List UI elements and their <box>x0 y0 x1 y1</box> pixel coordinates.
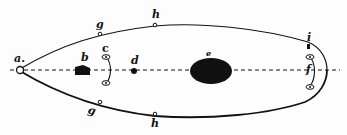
diagram-drawing <box>0 0 347 135</box>
diagram: a. b c d e f g h g h i <box>0 0 347 135</box>
organ-d <box>131 68 137 74</box>
label-d: d <box>131 55 139 66</box>
label-g-top: g <box>96 19 104 30</box>
marker-h-top <box>153 23 157 27</box>
marker-i <box>307 44 310 49</box>
label-h-bottom: h <box>151 118 159 129</box>
label-b: b <box>81 52 89 63</box>
organ-f-upper-pupil <box>309 56 311 58</box>
label-a: a. <box>14 53 25 64</box>
body-outline-upper <box>20 25 327 70</box>
marker-h-bottom <box>153 112 157 116</box>
label-h-top: h <box>152 9 160 20</box>
body-outline-lower <box>20 70 327 117</box>
marker-g-top <box>98 32 102 36</box>
organ-b <box>75 65 90 75</box>
organ-c-upper-pupil <box>105 56 107 58</box>
organ-c-lower-pupil <box>105 82 107 84</box>
organ-e <box>190 58 232 84</box>
organ-f-lower-pupil <box>309 86 311 88</box>
anterior-pole-a <box>17 67 24 74</box>
label-e: e <box>206 49 211 57</box>
label-f: f <box>306 64 311 75</box>
marker-g-bottom <box>98 100 102 104</box>
label-c: c <box>102 43 109 54</box>
label-i: i <box>307 32 311 43</box>
